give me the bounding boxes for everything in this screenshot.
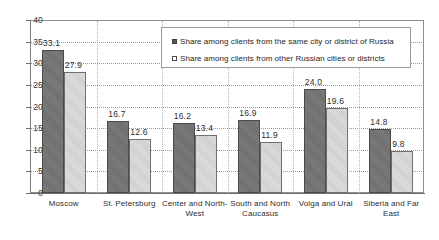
y-axis-tick-mark	[26, 128, 31, 129]
x-axis-category-label: Moscow	[27, 199, 101, 209]
bar-value-label: 19.6	[327, 97, 344, 106]
y-axis-tick-label: 10	[21, 146, 43, 155]
y-axis-tick-mark	[26, 63, 31, 64]
y-axis-tick-label: 15	[21, 124, 43, 133]
y-axis-tick-label: 20	[21, 103, 43, 112]
y-axis-tick-label: 30	[21, 59, 43, 68]
legend-swatch-icon-series-2	[172, 56, 177, 61]
bar-other-city	[260, 142, 282, 193]
bar-value-label: 24.0	[305, 78, 322, 87]
legend-item-series-2: Share among clients from other Russian c…	[172, 51, 410, 66]
bar-value-label: 9.8	[392, 140, 404, 149]
bar-other-city	[326, 108, 348, 193]
x-axis-category-label: Siberia and Far East	[355, 199, 429, 218]
legend-item-series-1: Share among clients from the same city o…	[172, 34, 410, 49]
category-separator	[97, 21, 98, 193]
bar-chart: 4035302520151050 33.127.916.712.616.213.…	[0, 0, 439, 240]
bar-value-label: 16.7	[108, 110, 125, 119]
x-axis-category-label: St. Petersburg	[93, 199, 167, 209]
bar-same-city	[42, 50, 64, 193]
bar-value-label: 33.1	[43, 39, 60, 48]
x-axis-category-label: South and North Caucasus	[224, 199, 298, 218]
bar-value-label: 16.9	[239, 109, 256, 118]
chart-legend: Share among clients from the same city o…	[161, 27, 411, 68]
x-axis-line	[30, 193, 425, 194]
bar-same-city	[369, 129, 391, 193]
y-axis-tick-label: 40	[21, 16, 43, 25]
y-axis-tick-label: 0	[21, 189, 43, 198]
x-axis-category-label: Volga and Ural	[289, 199, 363, 209]
bar-same-city	[173, 123, 195, 193]
bar-value-label: 13.4	[196, 124, 213, 133]
legend-label-series-2: Share among clients from other Russian c…	[180, 54, 385, 63]
y-axis-tick-label: 5	[21, 167, 43, 176]
y-axis-tick-label: 35	[21, 38, 43, 47]
bar-other-city	[129, 139, 151, 193]
y-axis-tick-mark	[26, 171, 31, 172]
legend-label-series-1: Share among clients from the same city o…	[180, 37, 394, 46]
bar-value-label: 27.9	[65, 61, 82, 70]
y-axis-tick-mark	[26, 107, 31, 108]
y-axis-tick-label: 25	[21, 81, 43, 90]
x-axis-category-label: Center and North-West	[158, 199, 232, 218]
y-axis-tick-mark	[26, 193, 31, 194]
y-axis-tick-mark	[26, 85, 31, 86]
bar-value-label: 14.8	[370, 118, 387, 127]
y-axis-tick-mark	[26, 42, 31, 43]
y-axis-tick-mark	[26, 150, 31, 151]
bar-value-label: 11.9	[261, 131, 278, 140]
bar-other-city	[195, 135, 217, 193]
legend-swatch-icon-series-1	[172, 39, 177, 44]
bar-same-city	[304, 89, 326, 193]
bar-same-city	[107, 121, 129, 193]
y-axis-tick-mark	[26, 20, 31, 21]
bar-same-city	[238, 120, 260, 193]
bar-other-city	[391, 151, 413, 193]
bar-other-city	[64, 72, 86, 193]
bar-value-label: 16.2	[174, 112, 191, 121]
bar-value-label: 12.6	[130, 128, 147, 137]
